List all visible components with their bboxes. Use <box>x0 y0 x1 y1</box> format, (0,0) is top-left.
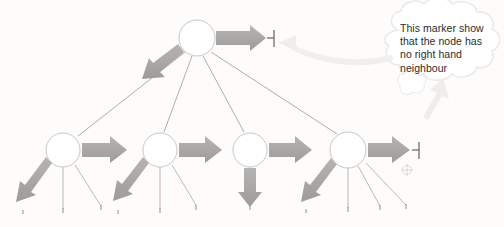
child-arrows <box>16 44 337 207</box>
end-marker-root <box>267 30 274 47</box>
tree-edges <box>78 52 337 136</box>
callout-line-3: no right hand <box>400 48 504 61</box>
arrow-child4-right <box>368 136 410 163</box>
callout-line-2: that the node has <box>400 35 504 48</box>
arrow-child1-down-left <box>16 157 52 202</box>
edge-root-child2 <box>164 56 192 132</box>
end-marker-child4 <box>412 142 419 159</box>
arrow-child2-down-left <box>113 157 149 201</box>
callout-pointer-to-root <box>278 35 394 65</box>
arrow-child3-right <box>269 136 312 163</box>
node-child2 <box>143 133 177 167</box>
arrow-child1-right <box>82 136 127 163</box>
arrow-child4-down-left <box>301 158 337 202</box>
edge-root-child4 <box>211 52 337 134</box>
arrow-child2-right <box>179 136 222 163</box>
callout-text: This marker show that the node has no ri… <box>400 22 504 75</box>
callout-pointer-to-child4 <box>423 78 449 120</box>
leaf-ticks <box>23 204 406 214</box>
registration-mark-icon <box>401 164 413 176</box>
callout-line-1: This marker show <box>400 22 504 35</box>
callout-line-4: neighbour <box>400 62 504 75</box>
node-root <box>179 20 215 56</box>
node-child3 <box>233 133 267 167</box>
node-child4 <box>330 132 366 168</box>
leaf-stubs <box>63 163 406 209</box>
arrow-child3-down <box>238 168 262 207</box>
node-child1 <box>46 133 80 167</box>
arrow-root-down-left <box>142 44 184 79</box>
arrow-root-right <box>216 25 266 51</box>
edge-root-child1 <box>78 52 185 136</box>
figure-canvas: This marker show that the node has no ri… <box>0 0 504 227</box>
edge-root-child3 <box>203 56 244 132</box>
